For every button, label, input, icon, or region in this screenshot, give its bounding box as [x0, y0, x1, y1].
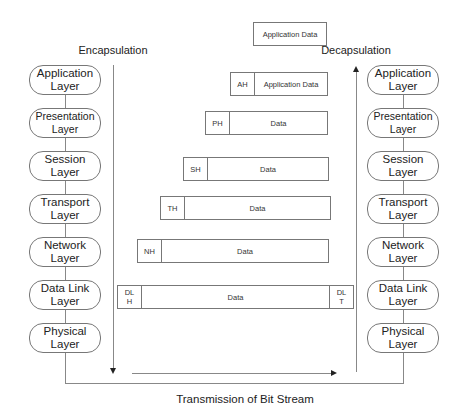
packet-header: TH: [161, 197, 185, 219]
layer-name: Transport: [41, 196, 90, 208]
right-layer-application: ApplicationLayer: [367, 65, 439, 95]
trailer-line1: DL: [337, 288, 347, 297]
decapsulation-label: Decapsulation: [321, 44, 391, 56]
layer-name: Application: [37, 67, 93, 79]
layer-suffix: Layer: [389, 252, 418, 264]
right-layer-network: NetworkLayer: [367, 237, 439, 267]
decapsulation-arrow-line: [356, 72, 357, 372]
layer-name: Transport: [379, 196, 428, 208]
left-layer-application: ApplicationLayer: [29, 65, 101, 95]
left-layer-session: SessionLayer: [29, 151, 101, 181]
header-line2: H: [127, 297, 132, 306]
layer-suffix: Layer: [51, 166, 80, 178]
layer-name: Data Link: [379, 282, 428, 294]
layer-suffix: Layer: [51, 80, 80, 92]
layer-suffix: Layer: [389, 338, 418, 350]
layer-name: Physical: [382, 325, 425, 337]
right-layer-data-link: Data LinkLayer: [367, 280, 439, 310]
layer-suffix: Layer: [389, 80, 418, 92]
packet-body: Data: [185, 197, 330, 219]
layer-suffix: Layer: [389, 209, 418, 221]
layer-name: Session: [383, 153, 424, 165]
layer-name: Application: [375, 67, 431, 79]
packet-header: NH: [138, 240, 162, 262]
layer-suffix: Layer: [51, 295, 80, 307]
layer-name: Data Link: [41, 282, 90, 294]
layer-suffix: Layer: [389, 295, 418, 307]
top-application-data-box: Application Data: [253, 22, 327, 46]
layer-name: Session: [45, 153, 86, 165]
right-layer-presentation: PresentationLayer: [367, 108, 439, 138]
packet-body: Application Data: [255, 73, 327, 95]
arrow-up-icon: [353, 66, 359, 72]
left-layer-network: NetworkLayer: [29, 237, 101, 267]
layer-name: Physical: [44, 325, 87, 337]
layer-suffix: Layer: [52, 123, 78, 135]
bit-stream-connector: [65, 383, 404, 384]
packet-body: Data: [162, 240, 328, 262]
packet-transport: TH Data: [160, 196, 331, 220]
layer-suffix: Layer: [51, 338, 80, 350]
layer-suffix: Layer: [51, 209, 80, 221]
layer-name: Presentation: [36, 110, 95, 122]
right-layer-transport: TransportLayer: [367, 194, 439, 224]
encapsulation-label: Encapsulation: [78, 44, 147, 56]
left-layer-transport: TransportLayer: [29, 194, 101, 224]
left-layer-physical: PhysicalLayer: [29, 323, 101, 353]
packet-application: AH Application Data: [230, 72, 328, 96]
layer-suffix: Layer: [51, 252, 80, 264]
left-layer-presentation: PresentationLayer: [29, 108, 101, 138]
layer-suffix: Layer: [390, 123, 416, 135]
layer-name: Network: [382, 239, 424, 251]
packet-network: NH Data: [137, 239, 329, 263]
arrow-down-icon: [110, 368, 116, 374]
transmission-arrow-line: [132, 373, 332, 374]
top-application-data-text: Application Data: [254, 23, 326, 45]
encapsulation-arrow-line: [113, 65, 114, 369]
layer-name: Presentation: [374, 110, 433, 122]
left-layer-data-link: Data LinkLayer: [29, 280, 101, 310]
arrow-right-icon: [331, 370, 337, 376]
packet-data-link: DLH Data DLT: [117, 285, 354, 309]
packet-header: DLH: [118, 286, 142, 308]
header-line1: DL: [125, 288, 135, 297]
layer-name: Network: [44, 239, 86, 251]
packet-body: Data: [230, 112, 327, 134]
packet-header: AH: [231, 73, 255, 95]
right-layer-physical: PhysicalLayer: [367, 323, 439, 353]
packet-session: SH Data: [183, 157, 329, 181]
packet-trailer: DLT: [329, 286, 353, 308]
packet-presentation: PH Data: [205, 111, 328, 135]
packet-header: PH: [206, 112, 230, 134]
packet-body: Data: [142, 286, 329, 308]
trailer-line2: T: [339, 297, 344, 306]
packet-header: SH: [184, 158, 208, 180]
transmission-label: Transmission of Bit Stream: [176, 393, 314, 405]
right-layer-session: SessionLayer: [367, 151, 439, 181]
layer-suffix: Layer: [389, 166, 418, 178]
packet-body: Data: [208, 158, 328, 180]
